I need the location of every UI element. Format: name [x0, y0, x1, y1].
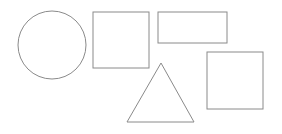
triangle-shape — [127, 63, 194, 122]
square-shape-2 — [207, 52, 263, 109]
wide-rectangle-shape — [158, 12, 227, 43]
shapes-svg — [0, 0, 282, 134]
shapes-canvas — [0, 0, 282, 134]
circle-shape — [18, 11, 86, 79]
square-shape-1 — [93, 12, 149, 68]
